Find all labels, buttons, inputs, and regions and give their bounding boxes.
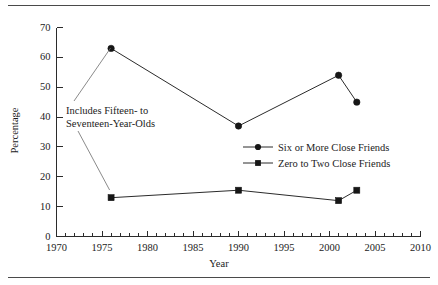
y-tick-label: 10 — [29, 201, 51, 212]
legend-label-zero-to-two: Zero to Two Close Friends — [278, 158, 390, 169]
x-tick-label: 1975 — [82, 242, 122, 253]
chart-legend: Six or More Close Friends Zero to Two Cl… — [243, 139, 390, 171]
x-tick-label: 1990 — [219, 242, 259, 253]
circle-marker-icon — [243, 141, 273, 153]
square-marker-icon — [243, 157, 273, 169]
x-tick-label: 2000 — [310, 242, 350, 253]
annotation-line-1: Includes Fifteen- to — [66, 104, 155, 117]
y-axis-title: Percentage — [9, 86, 20, 176]
legend-item-six-or-more: Six or More Close Friends — [243, 139, 390, 155]
x-tick-label: 1980 — [128, 242, 168, 253]
chart-annotation: Includes Fifteen- to Seventeen-Year-Olds — [66, 104, 155, 130]
x-axis-title: Year — [0, 258, 438, 269]
annotation-line-2: Seventeen-Year-Olds — [66, 117, 155, 130]
y-tick-label: 40 — [29, 111, 51, 122]
y-tick-label: 30 — [29, 141, 51, 152]
x-tick-label: 1985 — [173, 242, 213, 253]
y-tick-label: 60 — [29, 51, 51, 62]
x-tick-label: 1995 — [264, 242, 304, 253]
y-tick-label: 50 — [29, 81, 51, 92]
x-tick-label: 2005 — [355, 242, 395, 253]
axes-group — [57, 28, 421, 237]
y-tick-label: 70 — [29, 22, 51, 33]
y-tick-label: 0 — [29, 231, 51, 242]
legend-item-zero-to-two: Zero to Two Close Friends — [243, 155, 390, 171]
y-tick-label: 20 — [29, 171, 51, 182]
x-tick-label: 1970 — [37, 242, 77, 253]
legend-label-six-or-more: Six or More Close Friends — [278, 142, 389, 153]
chart-figure: 010203040506070 197019751980198519901995… — [0, 0, 438, 285]
x-tick-label: 2010 — [401, 242, 438, 253]
